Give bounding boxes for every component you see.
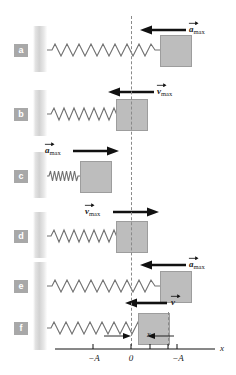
tick-label-zero: 0 [124,354,138,363]
axis-label-x: x [220,344,224,353]
tick-label-minus-a-left: −A [84,354,104,363]
tick-label-minus-a-right: −A [168,354,188,363]
x-axis [0,0,236,375]
physics-figure: a amax b [0,0,236,375]
